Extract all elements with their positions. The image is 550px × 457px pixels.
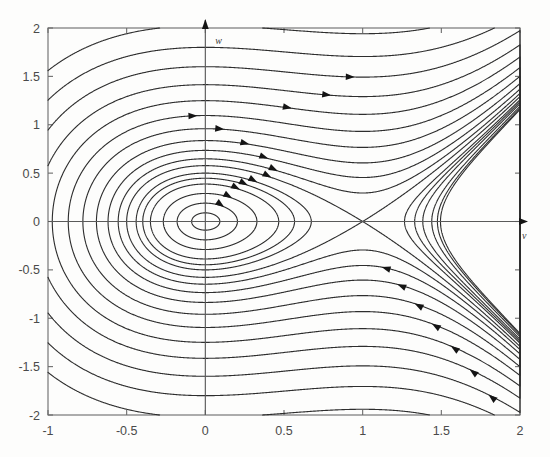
x-tick-label: 1 xyxy=(359,424,366,438)
flow-arrow xyxy=(240,139,250,145)
y-tick-label: 0.5 xyxy=(23,167,40,181)
orbit-curve xyxy=(263,28,430,34)
y-tick-label: -2 xyxy=(29,409,40,423)
flow-arrow xyxy=(223,191,232,198)
flow-arrow xyxy=(188,113,197,120)
w-axis-arrowhead xyxy=(202,19,209,29)
x-tick-label: 2 xyxy=(517,424,524,438)
flow-arrow xyxy=(215,125,224,132)
phase-portrait-figure: -1-0.500.511.5221.510.50-0.5-1-1.5-2 wv xyxy=(0,0,550,457)
flow-arrow xyxy=(432,324,441,331)
v-axis-label: v xyxy=(522,230,527,241)
flow-arrow xyxy=(262,170,271,177)
x-tick-label: 0 xyxy=(202,424,209,438)
y-tick-label: -1.5 xyxy=(18,360,40,374)
flow-arrow xyxy=(248,175,257,182)
y-tick-label: -1 xyxy=(29,312,40,326)
flow-arrow xyxy=(415,304,425,311)
flow-arrow xyxy=(397,284,407,290)
flow-arrow xyxy=(489,395,498,403)
y-tick-label: 0 xyxy=(33,215,40,229)
flow-arrow xyxy=(382,266,392,272)
flow-arrow xyxy=(230,183,240,190)
x-tick-label: 0.5 xyxy=(275,424,292,438)
flow-arrow xyxy=(346,73,355,80)
w-axis-label: w xyxy=(215,35,222,46)
x-tick-label: -1 xyxy=(42,424,53,438)
flow-arrow xyxy=(322,91,331,98)
y-tick-label: 1.5 xyxy=(23,70,40,84)
y-tick-label: 2 xyxy=(33,22,40,36)
flow-arrow xyxy=(259,152,269,158)
flow-arrow xyxy=(470,369,479,377)
flow-arrow xyxy=(282,103,291,109)
flow-direction-arrows xyxy=(188,73,497,403)
orbit-curve xyxy=(263,409,430,415)
flow-arrow xyxy=(268,164,278,171)
x-tick-label: -0.5 xyxy=(116,424,138,438)
flow-arrow xyxy=(451,346,460,354)
v-axis-arrowhead xyxy=(519,218,528,225)
y-tick-label: -0.5 xyxy=(18,263,40,277)
x-tick-label: 1.5 xyxy=(433,424,450,438)
plot-canvas: -1-0.500.511.5221.510.50-0.5-1-1.5-2 wv xyxy=(0,0,550,457)
coordinate-axes xyxy=(48,19,528,415)
tick-labels: -1-0.500.511.5221.510.50-0.5-1-1.5-2 xyxy=(18,22,523,439)
y-tick-label: 1 xyxy=(33,118,40,132)
